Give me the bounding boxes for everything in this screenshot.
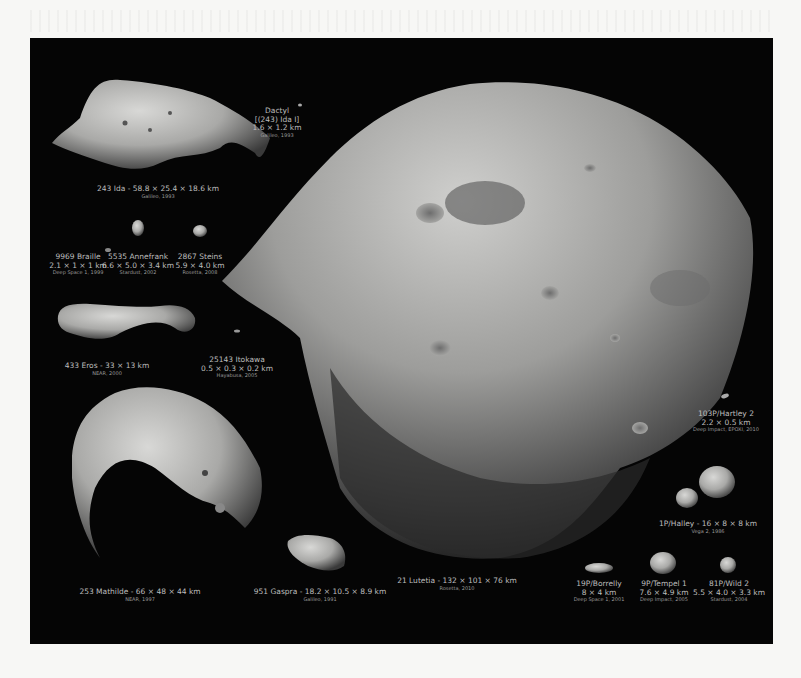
mathilde-image [72, 387, 262, 558]
page-bleed-through [30, 10, 770, 32]
caption-mission: Stardust, 2004 [693, 597, 765, 603]
tempel1-image [650, 552, 676, 574]
caption-mission: Galileo, 1993 [97, 194, 219, 200]
wild2-image [720, 557, 736, 573]
eros-image [58, 304, 195, 339]
caption-mission: Rosetta, 2010 [397, 586, 517, 592]
caption-itokawa: 25143 Itokawa 0.5 × 0.3 × 0.2 km Hayabus… [201, 356, 273, 379]
caption-gaspra: 951 Gaspra - 18.2 × 10.5 × 8.9 km Galile… [254, 588, 386, 602]
caption-mission: Vega 2, 1986 [659, 529, 757, 535]
caption-mission: Deep Impact, EPOXI, 2010 [693, 427, 759, 433]
itokawa-image [234, 330, 240, 333]
caption-mission: NEAR, 1997 [79, 597, 200, 603]
caption-ida: 243 Ida - 58.8 × 25.4 × 18.6 km Galileo,… [97, 185, 219, 199]
caption-hartley2: 103P/Hartley 2 2.2 × 0.5 km Deep Impact,… [693, 410, 759, 433]
caption-mission: Galileo, 1991 [254, 597, 386, 603]
gaspra-image [288, 535, 346, 571]
caption-mission: Hayabusa, 2005 [201, 373, 273, 379]
lutetia-image [222, 82, 753, 558]
borrelly-image [585, 563, 613, 573]
ida-image [52, 80, 270, 169]
montage-graphics [30, 38, 773, 644]
caption-mission: Rosetta, 2008 [176, 270, 225, 276]
caption-annefrank: 5535 Annefrank 6.6 × 5.0 × 3.4 km Stardu… [102, 253, 174, 276]
caption-mission: Deep Space 1, 1999 [49, 270, 107, 276]
caption-wild2: 81P/Wild 2 5.5 × 4.0 × 3.3 km Stardust, … [693, 580, 765, 603]
caption-eros: 433 Eros - 33 × 13 km NEAR, 2000 [65, 362, 150, 376]
caption-braille: 9969 Braille 2.1 × 1 × 1 km Deep Space 1… [49, 253, 107, 276]
annefrank-image [132, 220, 144, 236]
asteroid-comet-montage: Dactyl [(243) Ida I] 1.6 × 1.2 km Galile… [30, 38, 773, 644]
caption-dactyl: Dactyl [(243) Ida I] 1.6 × 1.2 km Galile… [253, 107, 302, 139]
caption-mission: Deep Impact, 2005 [640, 597, 689, 603]
caption-lutetia: 21 Lutetia - 132 × 101 × 76 km Rosetta, … [397, 577, 517, 591]
caption-mission: Deep Space 1, 2001 [574, 597, 625, 603]
halley-image [676, 466, 735, 508]
caption-borrelly: 19P/Borrelly 8 × 4 km Deep Space 1, 2001 [574, 580, 625, 603]
hartley2-image [721, 393, 730, 399]
caption-mission: NEAR, 2000 [65, 371, 150, 377]
caption-mission: Galileo, 1993 [253, 133, 302, 139]
caption-steins: 2867 Steins 5.9 × 4.0 km Rosetta, 2008 [176, 253, 225, 276]
caption-mission: Stardust, 2002 [102, 270, 174, 276]
caption-halley: 1P/Halley - 16 × 8 × 8 km Vega 2, 1986 [659, 520, 757, 534]
caption-tempel1: 9P/Tempel 1 7.6 × 4.9 km Deep Impact, 20… [640, 580, 689, 603]
steins-image [193, 225, 207, 237]
caption-mathilde: 253 Mathilde - 66 × 48 × 44 km NEAR, 199… [79, 588, 200, 602]
